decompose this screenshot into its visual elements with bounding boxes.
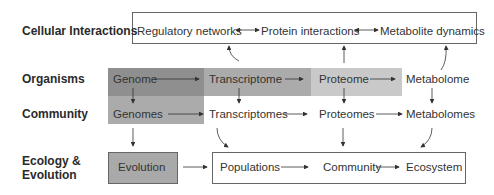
- node-protein-interactions: Protein interactions: [261, 24, 359, 38]
- node-regulatory-networks: Regulatory networks: [137, 24, 242, 38]
- node-ecosystem: Ecosystem: [406, 160, 462, 174]
- node-community: Community: [323, 160, 381, 174]
- row-label-evolution: Evolution: [22, 168, 77, 183]
- node-transcriptome: Transcriptome: [209, 72, 282, 86]
- node-proteomes: Proteomes: [319, 107, 375, 121]
- row-label-ecology: Ecology &: [22, 154, 81, 169]
- node-metabolome: Metabolome: [406, 72, 469, 86]
- node-genomes: Genomes: [113, 107, 163, 121]
- node-proteome: Proteome: [319, 72, 369, 86]
- node-metabolomes: Metabolomes: [406, 107, 475, 121]
- node-evolution: Evolution: [118, 160, 165, 174]
- node-genome: Genome: [113, 72, 157, 86]
- row-label-organisms: Organisms: [22, 72, 85, 87]
- row-label-community: Community: [22, 107, 88, 122]
- node-metabolite-dynamics: Metabolite dynamics: [380, 24, 485, 38]
- node-transcriptomes: Transcriptomes: [209, 107, 288, 121]
- row-label-cellular-interactions: Cellular Interactions: [22, 24, 137, 39]
- node-populations: Populations: [220, 160, 280, 174]
